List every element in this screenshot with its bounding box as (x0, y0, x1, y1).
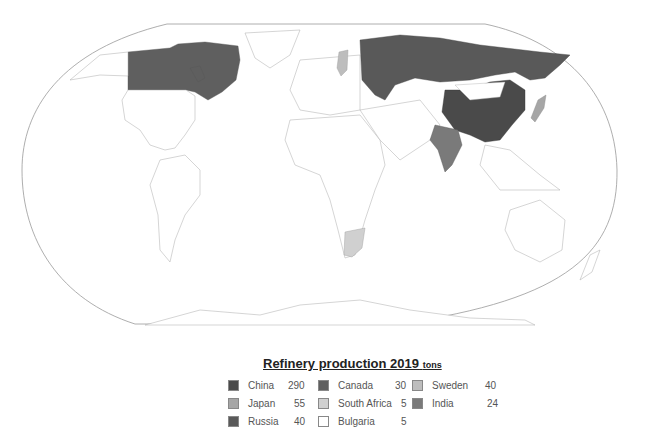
swatch-sweden (412, 380, 423, 391)
legend-value: 24 (487, 398, 498, 409)
swatch-china (228, 380, 239, 391)
legend-title-text: Refinery production 2019 (263, 356, 419, 371)
legend-value: 5 (401, 416, 407, 427)
legend-label: Canada (338, 380, 373, 391)
legend-item-bulgaria: Bulgaria 5 (318, 416, 418, 430)
legend-label: China (248, 380, 274, 391)
legend-item-japan: Japan 55 (228, 398, 308, 412)
legend-label: Japan (248, 398, 275, 409)
world-map (0, 0, 665, 345)
legend-label: Sweden (432, 380, 468, 391)
legend-value: 40 (294, 416, 305, 427)
legend-unit: tons (423, 360, 442, 370)
legend-label: Russia (248, 416, 279, 427)
legend-item-russia: Russia 40 (228, 416, 308, 430)
swatch-india (412, 398, 423, 409)
legend-title: Refinery production 2019 tons (263, 356, 442, 371)
swatch-canada (318, 380, 329, 391)
legend-item-sweden: Sweden 40 (412, 380, 502, 394)
swatch-japan (228, 398, 239, 409)
legend-value: 5 (401, 398, 407, 409)
legend-value: 290 (288, 380, 305, 391)
legend-item-canada: Canada 30 (318, 380, 418, 394)
legend-item-india: India 24 (412, 398, 502, 412)
swatch-russia (228, 416, 239, 427)
swatch-south-africa (318, 398, 329, 409)
legend-value: 55 (294, 398, 305, 409)
legend-value: 40 (485, 380, 496, 391)
legend-value: 30 (395, 380, 406, 391)
legend-label: India (432, 398, 454, 409)
legend-item-south-africa: South Africa 5 (318, 398, 418, 412)
legend-label: Bulgaria (338, 416, 375, 427)
legend-label: South Africa (338, 398, 392, 409)
swatch-bulgaria (318, 416, 329, 427)
europe (290, 55, 360, 115)
legend-item-china: China 290 (228, 380, 308, 394)
